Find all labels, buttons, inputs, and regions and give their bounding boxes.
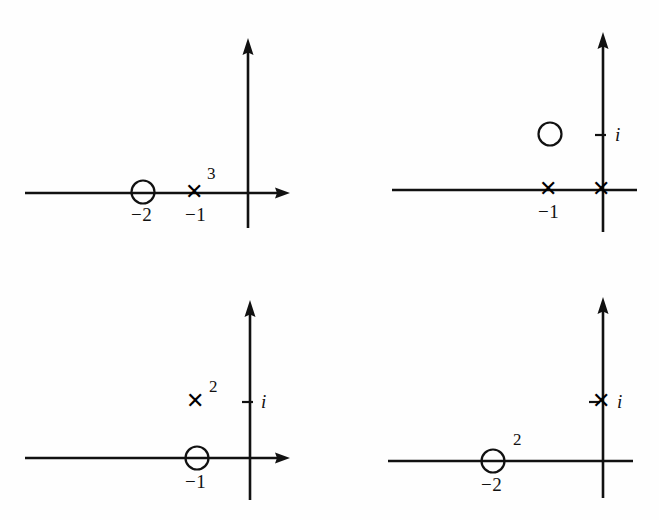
pole-marker: ✕: [592, 390, 610, 412]
real-axis-arrow-icon: [275, 188, 290, 199]
pole-marker: ✕: [186, 390, 204, 412]
zero-axis-label: −2: [131, 205, 152, 224]
real-axis-arrow-icon: [275, 453, 290, 464]
pole-multiplicity-label: 2: [209, 378, 218, 395]
panel-bottom-right: ✕ i 2 −2: [330, 260, 659, 520]
pole-marker-minus-one: ✕: [539, 178, 557, 200]
pole-axis-label: −1: [185, 205, 206, 224]
imaginary-axis-arrow-icon: [245, 300, 256, 317]
pole-axis-label: −1: [538, 202, 559, 221]
pole-marker: ✕: [185, 181, 203, 203]
zero-marker: [539, 123, 562, 146]
panel-top-right: ✕ ✕ i −1: [330, 0, 659, 260]
imaginary-unit-label: i: [617, 392, 622, 411]
zero-multiplicity-label: 2: [513, 431, 522, 448]
zero-axis-label: −2: [481, 475, 502, 494]
pole-zero-figure: ✕ 3 −2 −1 ✕ ✕ i −1: [0, 0, 659, 520]
pole-marker-origin: ✕: [592, 178, 610, 200]
zero-axis-label: −1: [185, 472, 206, 491]
imaginary-axis-arrow-icon: [598, 32, 609, 49]
pole-multiplicity-label: 3: [207, 165, 216, 182]
imaginary-axis-arrow-icon: [243, 38, 254, 55]
panel-top-left: ✕ 3 −2 −1: [0, 0, 330, 260]
panel-bottom-left: ✕ 2 i −1: [0, 260, 330, 520]
imaginary-unit-label: i: [261, 392, 266, 411]
imaginary-unit-label: i: [615, 125, 620, 144]
imaginary-axis-arrow-icon: [598, 297, 609, 314]
